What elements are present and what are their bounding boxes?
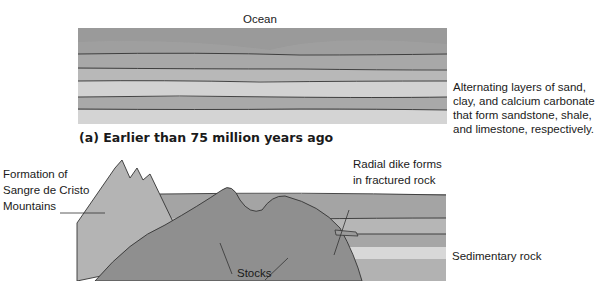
ocean-label: Ocean (243, 12, 277, 26)
sedimentary-rock-label: Sedimentary rock (452, 249, 541, 263)
dike-label-line-1: Radial dike forms (353, 157, 442, 171)
mountains-label-line-2: Sangre de Cristo (3, 183, 89, 197)
sediment-layer-1 (78, 54, 447, 69)
panel-a-cross-section (78, 28, 447, 124)
panel-a-caption: (a) Earlier than 75 million years ago (79, 130, 333, 145)
layers-description-line-4: and limestone, respectively. (453, 122, 594, 136)
sediment-layer-2 (78, 69, 447, 81)
mountains-label-line-3: Mountains (3, 199, 56, 213)
dike-label-line-2: in fractured rock (353, 173, 435, 187)
sediment-layer-5 (78, 110, 447, 124)
sediment-layer-3 (78, 81, 447, 97)
layers-description-line-3: that form sandstone, shale, (453, 108, 592, 122)
stocks-label: Stocks (237, 266, 272, 280)
sediment-layer-4 (78, 97, 447, 110)
layers-description-line-1: Alternating layers of sand, (453, 80, 586, 94)
layers-description-line-2: clay, and calcium carbonate (453, 94, 595, 108)
mountains-label-line-1: Formation of (3, 167, 68, 181)
